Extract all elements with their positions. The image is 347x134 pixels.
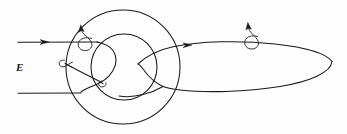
field-label-E: E — [15, 61, 23, 73]
figure-container: E — [0, 0, 347, 134]
figure-background — [0, 0, 347, 134]
trajectory-diagram-svg: E — [0, 0, 347, 134]
